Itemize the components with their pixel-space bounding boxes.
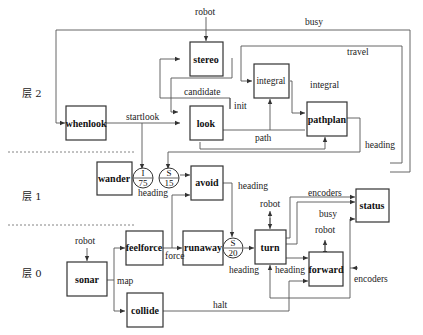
turn-label: turn xyxy=(261,242,280,253)
inhibit-node-i75: I 75 xyxy=(133,168,153,188)
stereo-label: stereo xyxy=(193,54,218,65)
layer-1-label: 层 1 xyxy=(22,191,42,202)
label-startlook: startlook xyxy=(126,112,159,122)
module-look: look xyxy=(190,106,223,140)
svg-text:15: 15 xyxy=(165,178,175,188)
module-stereo: stereo xyxy=(190,42,223,76)
module-pathplan: pathplan xyxy=(307,102,347,136)
label-halt: halt xyxy=(213,300,228,310)
label-integral-out: integral xyxy=(310,80,339,90)
label-travel: travel xyxy=(347,47,369,57)
module-feelforce: feelforce xyxy=(126,231,163,265)
label-encoders-forward: encoders xyxy=(354,274,388,284)
module-turn: turn xyxy=(255,230,286,264)
forward-busy-line xyxy=(350,219,355,268)
feelforce-label: feelforce xyxy=(126,242,163,253)
label-path: path xyxy=(255,133,272,143)
subsumption-architecture-diagram: 层 2 层 1 层 0 xyxy=(0,0,423,335)
label-robot-forward: robot xyxy=(315,225,335,235)
halt-line xyxy=(163,281,308,311)
suppress-node-s20: S 20 xyxy=(223,238,243,258)
layer-2-label: 层 2 xyxy=(22,88,42,99)
sonar-label: sonar xyxy=(75,274,99,285)
label-heading-s20: heading xyxy=(229,265,259,275)
label-force: force xyxy=(165,251,185,261)
label-encoders-status: encoders xyxy=(308,188,342,198)
module-sonar: sonar xyxy=(67,262,107,296)
layer-0-label: 层 0 xyxy=(22,268,42,279)
svg-text:I: I xyxy=(142,168,145,178)
wander-label: wander xyxy=(98,173,131,184)
label-busy-top: busy xyxy=(305,17,323,27)
module-status: status xyxy=(356,189,389,222)
avoid-label: avoid xyxy=(195,177,219,188)
forward-label: forward xyxy=(309,264,344,275)
collide-label: collide xyxy=(131,305,159,316)
status-label: status xyxy=(359,200,384,211)
module-avoid: avoid xyxy=(191,166,223,200)
label-robot-turn: robot xyxy=(260,199,280,209)
svg-text:S: S xyxy=(166,168,171,178)
module-forward: forward xyxy=(309,252,344,286)
pathplan-label: pathplan xyxy=(308,114,347,125)
svg-text:S: S xyxy=(230,238,235,248)
look-label: look xyxy=(197,118,216,129)
label-heading-wander: heading xyxy=(138,188,168,198)
label-map: map xyxy=(117,276,134,286)
label-init: init xyxy=(234,101,247,111)
svg-text:75: 75 xyxy=(139,178,149,188)
suppress-node-s15: S 15 xyxy=(159,168,179,188)
label-busy-forward: busy xyxy=(319,209,337,219)
integral-pathplan-line xyxy=(290,81,305,113)
whenlook-label: whenlook xyxy=(65,118,107,129)
module-integral: integral xyxy=(254,64,289,98)
label-candidate: candidate xyxy=(184,87,220,97)
label-heading-pathplan: heading xyxy=(365,140,395,150)
svg-text:20: 20 xyxy=(229,248,239,258)
label-robot-stereo: robot xyxy=(195,7,215,17)
module-wander: wander xyxy=(97,162,132,195)
module-runaway: runaway xyxy=(183,231,223,265)
label-robot-sonar: robot xyxy=(75,236,95,246)
module-whenlook: whenlook xyxy=(65,106,107,140)
label-heading-turn: heading xyxy=(275,265,305,275)
label-heading-avoid: heading xyxy=(238,181,268,191)
module-collide: collide xyxy=(127,293,163,327)
integral-box-label: integral xyxy=(256,76,285,86)
runaway-label: runaway xyxy=(184,242,222,253)
